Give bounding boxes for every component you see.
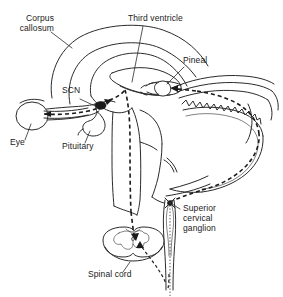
label-pineal: Pineal — [183, 56, 225, 66]
leader-scn — [80, 99, 95, 106]
pathway-ganglion-to-pineal — [165, 85, 259, 208]
diagram-canvas — [0, 0, 283, 297]
eye-shape — [16, 99, 48, 130]
leader-third-ventricle — [132, 26, 143, 82]
label-superior-cervical-ganglion: Superior cervical ganglion — [183, 204, 249, 233]
spinal-cord-shape — [103, 227, 164, 261]
neck-contour-shape — [166, 176, 210, 196]
label-spinal-cord: Spinal cord — [88, 270, 150, 280]
diencephalon-shape — [91, 96, 141, 215]
label-pituitary: Pituitary — [62, 142, 112, 152]
label-corpus-callosum: Corpus callosum — [6, 14, 54, 34]
anatomical-diagram-figure: Corpus callosum Third ventricle Pineal S… — [0, 0, 283, 297]
cerebellum-shape — [170, 75, 278, 192]
leader-corpus-callosum — [51, 32, 72, 48]
label-eye: Eye — [10, 138, 40, 148]
label-third-ventricle: Third ventricle — [128, 14, 208, 24]
label-scn: SCN — [62, 86, 90, 96]
